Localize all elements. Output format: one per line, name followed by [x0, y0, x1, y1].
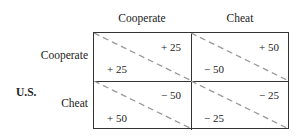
row-header-cheat: Cheat — [4, 97, 88, 109]
row-header-cooperate: Cooperate — [4, 49, 88, 61]
cell-cheat-cheat: − 25 − 25 — [191, 81, 289, 130]
payoff-row-player: − 25 — [204, 112, 224, 124]
payoff-column-player: − 25 — [259, 89, 279, 101]
payoff-column-player: + 25 — [161, 41, 181, 53]
column-header-cooperate: Cooperate — [93, 12, 191, 24]
cell-cooperate-cheat: + 50 − 50 — [191, 33, 289, 82]
column-header-cheat: Cheat — [191, 12, 289, 24]
payoff-column-player: − 50 — [161, 89, 181, 101]
cell-cooperate-cooperate: + 25 + 25 — [94, 33, 192, 82]
payoff-matrix: + 25 + 25 + 50 − 50 − 50 + 50 − 25 − 25 — [93, 32, 289, 129]
payoff-row-player: + 50 — [107, 112, 127, 124]
cell-cheat-cooperate: − 50 + 50 — [94, 81, 192, 130]
payoff-row-player: + 25 — [107, 63, 127, 75]
payoff-row-player: − 50 — [204, 63, 224, 75]
payoff-column-player: + 50 — [259, 41, 279, 53]
